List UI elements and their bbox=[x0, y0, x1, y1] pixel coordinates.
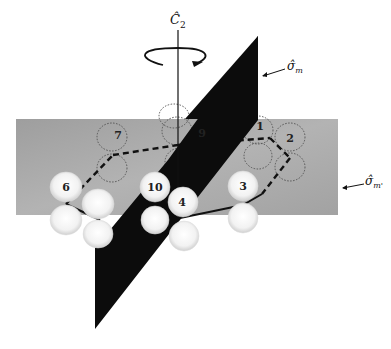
c2-subscript: 2 bbox=[180, 20, 186, 30]
rotation-arrowhead-icon bbox=[192, 61, 203, 67]
sigma-m-symbol: σ̂ bbox=[287, 59, 295, 73]
atom-label-4: 4 bbox=[178, 196, 186, 209]
atom-label-1: 1 bbox=[256, 120, 264, 133]
sigma-m-prime-arrowhead-icon bbox=[342, 185, 347, 190]
sigma-m-subscript: m bbox=[295, 66, 303, 75]
sigma-m-prime-label: σ̂m' bbox=[365, 174, 383, 190]
atom-label-7: 7 bbox=[114, 129, 122, 142]
atom-label-2: 2 bbox=[286, 132, 294, 145]
naphthalene-symmetry-diagram: 7 9 1 2 6 10 4 3 bbox=[0, 0, 391, 349]
c2-axis-label: Ĉ2 bbox=[170, 12, 186, 30]
sigma-m-plane-top bbox=[185, 36, 258, 119]
sigma-m-label: σ̂m bbox=[287, 59, 303, 75]
atom-label-6: 6 bbox=[62, 181, 70, 194]
atom-label-9: 9 bbox=[198, 127, 206, 140]
atom-label-3: 3 bbox=[239, 180, 247, 193]
sigma-m-prime-subscript: m' bbox=[373, 181, 383, 190]
sigma-m-prime-symbol: σ̂ bbox=[365, 174, 373, 188]
sigma-m-arrowhead-icon bbox=[262, 72, 267, 77]
atom-label-10: 10 bbox=[147, 181, 163, 194]
c2-symbol: Ĉ bbox=[170, 12, 180, 27]
